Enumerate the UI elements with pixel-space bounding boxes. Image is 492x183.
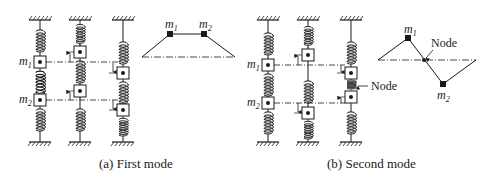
- mode-node-point: [422, 58, 426, 62]
- caption-first-mode: (a) First mode: [99, 156, 173, 171]
- mass-m1-box: [302, 49, 314, 61]
- node-label-mode-shape: Node: [431, 36, 457, 50]
- spring-icon: [264, 71, 273, 99]
- spring-icon: [304, 24, 313, 48]
- mode-shapes-figure: m1 m2: [0, 0, 492, 183]
- fixed-support-top-icon: [112, 16, 135, 20]
- spring-icon: [36, 106, 45, 134]
- spring-mass-column-opposite-displacement: Node: [337, 16, 397, 146]
- fixed-support-top-icon: [297, 16, 320, 20]
- node-pointer-arrow-icon: [426, 50, 433, 58]
- fixed-support-bottom-icon: [256, 142, 279, 146]
- mass-m2-box: [74, 85, 86, 97]
- spring-mass-column-displaced-up: [66, 16, 92, 146]
- mass-label-m2: m2: [247, 95, 260, 111]
- spring-mass-column-opposite-displacement: [294, 16, 320, 146]
- spring-mass-column-equilibrium: [28, 16, 52, 146]
- spring-icon: [304, 119, 313, 141]
- mass-label-m2: m2: [19, 92, 32, 108]
- mass-m2-box: [302, 107, 314, 119]
- mode-point-m1: [167, 31, 173, 37]
- node-label-spring: Node: [371, 79, 397, 93]
- fixed-support-bottom-icon: [111, 142, 134, 146]
- mode-point-m2: [201, 31, 207, 37]
- mode-point-m2: [440, 81, 446, 87]
- panel-first-mode: m1 m2: [19, 16, 235, 171]
- spring-icon: [264, 30, 273, 58]
- mode-label-m1: m1: [404, 22, 417, 38]
- caption-second-mode: (b) Second mode: [327, 156, 416, 171]
- panel-second-mode: m1 m2: [247, 16, 476, 171]
- fixed-support-top-icon: [257, 16, 280, 20]
- mode-shape-line: [378, 38, 476, 84]
- mass-m2-box: [345, 91, 357, 103]
- fixed-support-bottom-icon: [68, 142, 91, 146]
- mode-label-m1: m1: [165, 17, 178, 33]
- spring-mass-column-displaced-down: [109, 16, 135, 146]
- spring-icon: [119, 116, 128, 138]
- spring-node-icon: [347, 79, 356, 90]
- mass-m1-box: [117, 67, 129, 79]
- mass-label-m1: m1: [247, 57, 260, 73]
- mass-m1-box: [262, 59, 274, 71]
- spring-icon: [36, 27, 45, 55]
- spring-icon: [304, 78, 313, 106]
- spring-icon: [119, 79, 128, 107]
- spring-mass-column-equilibrium: [256, 16, 280, 146]
- mass-label-m1: m1: [19, 54, 32, 70]
- spring-icon: [347, 39, 356, 67]
- spring-icon: [119, 39, 128, 67]
- mode-shape-plot-first: m1 m2: [142, 17, 235, 57]
- spring-icon: [76, 22, 85, 46]
- fixed-support-bottom-icon: [339, 142, 362, 146]
- mode-shape-line: [142, 34, 235, 57]
- mass-m2-box: [34, 94, 46, 106]
- mode-label-m2: m2: [199, 17, 212, 33]
- mass-m1-box: [34, 56, 46, 68]
- mass-m1-box: [345, 67, 357, 79]
- fixed-support-top-icon: [29, 16, 52, 20]
- spring-icon: [76, 106, 85, 134]
- mass-m1-box: [74, 46, 86, 58]
- fixed-support-bottom-icon: [28, 142, 51, 146]
- mode-label-m2: m2: [437, 88, 450, 104]
- fixed-support-top-icon: [69, 16, 92, 20]
- mass-m2-box: [262, 97, 274, 109]
- fixed-support-bottom-icon: [296, 142, 319, 146]
- fixed-support-top-icon: [340, 16, 363, 20]
- spring-icon: [264, 109, 273, 137]
- mass-m2-box: [117, 104, 129, 116]
- spring-icon: [347, 109, 356, 137]
